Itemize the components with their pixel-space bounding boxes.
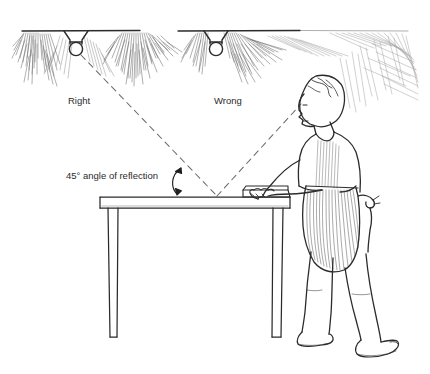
label-wrong: Wrong bbox=[214, 96, 242, 106]
illustration-canvas: Right Wrong 45° angle of reflection bbox=[0, 0, 430, 374]
light-glare-hatching-center bbox=[103, 33, 182, 86]
double-headed-angle-arrow bbox=[173, 168, 182, 195]
shirt-shading bbox=[316, 140, 339, 188]
head bbox=[299, 75, 345, 126]
dashed-reflected-light-ray bbox=[217, 104, 301, 196]
label-angle-of-reflection: 45° angle of reflection bbox=[66, 171, 158, 181]
light-glare-hatching-right bbox=[181, 33, 286, 84]
shoe-back bbox=[297, 332, 333, 346]
shoe-front bbox=[356, 340, 399, 357]
light-glare-hatching-far-right bbox=[268, 33, 418, 112]
legs bbox=[302, 252, 381, 342]
workbench-table bbox=[100, 197, 290, 337]
table-leg-left bbox=[108, 208, 118, 337]
label-right: Right bbox=[68, 96, 90, 106]
diagram-svg bbox=[0, 0, 430, 374]
arm bbox=[258, 160, 322, 199]
ceiling-line bbox=[22, 31, 408, 32]
striped-apron bbox=[303, 186, 380, 272]
shirt bbox=[298, 132, 360, 192]
table-leg-right bbox=[272, 208, 283, 337]
